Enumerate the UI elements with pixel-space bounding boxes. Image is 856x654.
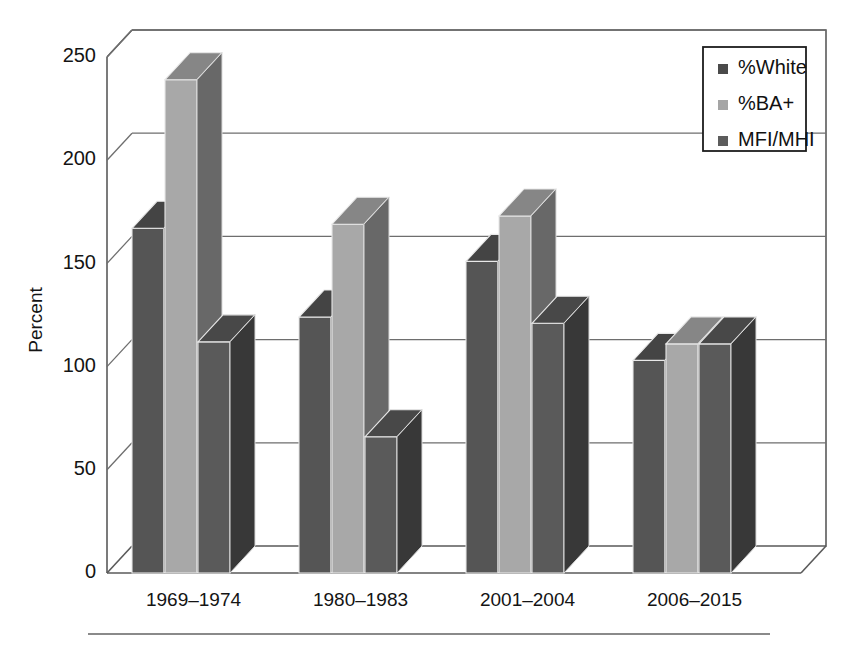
bar-front-face — [699, 344, 731, 573]
x-axis-category-label: 2001–2004 — [480, 589, 576, 610]
gridline-connector — [107, 133, 132, 160]
bar — [198, 315, 255, 573]
bar — [532, 296, 589, 573]
floor-right-edge — [801, 546, 826, 573]
bar-side-face — [731, 317, 756, 573]
y-axis-tick-labels: 050100150200250 — [63, 44, 96, 582]
x-axis-category-label: 1969–1974 — [146, 589, 242, 610]
y-axis-tick-label: 0 — [85, 560, 96, 582]
chart-figure: 050100150200250 Percent 1969–19741980–19… — [0, 0, 856, 654]
bar-front-face — [499, 216, 531, 573]
legend-label: %BA+ — [738, 92, 794, 114]
bar-side-face — [564, 296, 589, 573]
gridline-connector — [107, 443, 132, 470]
x-axis-category-labels: 1969–19741980–19832001–20042006–2015 — [146, 589, 742, 610]
bar-front-face — [132, 228, 164, 573]
bar-front-face — [198, 342, 230, 573]
bar-front-face — [633, 360, 665, 573]
legend-label: %White — [738, 56, 807, 78]
x-axis-category-label: 2006–2015 — [647, 589, 742, 610]
bar-chart-svg: 050100150200250 Percent 1969–19741980–19… — [0, 0, 856, 654]
y-axis-title: Percent — [25, 287, 46, 353]
legend-swatch — [718, 136, 728, 146]
x-axis-category-label: 1980–1983 — [313, 589, 408, 610]
bar-front-face — [165, 80, 197, 573]
y-axis-tick-label: 100 — [63, 354, 96, 376]
legend-label: MFI/MHI — [738, 128, 815, 150]
y-axis-tick-label: 150 — [63, 251, 96, 273]
gridline-connector — [107, 236, 132, 263]
bar-front-face — [365, 437, 397, 573]
legend-swatch — [718, 100, 728, 110]
bar-front-face — [299, 317, 331, 573]
legend[interactable]: %White%BA+MFI/MHI — [703, 47, 815, 151]
bar-front-face — [532, 323, 564, 573]
bar-front-face — [466, 261, 498, 573]
bar-side-face — [230, 315, 255, 573]
floor-left-depth-edge — [107, 546, 132, 573]
bar — [365, 410, 422, 573]
bar — [699, 317, 756, 573]
y-axis-tick-label: 200 — [63, 147, 96, 169]
bar-front-face — [332, 224, 364, 573]
y-axis-tick-label: 50 — [74, 457, 96, 479]
gridline-connector — [107, 340, 132, 367]
bars-layer — [132, 53, 756, 573]
y-axis-tick-label: 250 — [63, 44, 96, 66]
gridline-connector — [107, 30, 132, 57]
bar-side-face — [397, 410, 422, 573]
legend-swatch — [718, 64, 728, 74]
bar-front-face — [666, 344, 698, 573]
